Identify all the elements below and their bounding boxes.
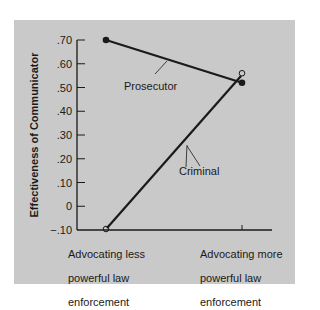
series-prosecutor [103,37,246,86]
x-category-label-less: Advocating less powerful law enforcement [68,236,145,310]
svg-text:0: 0 [66,200,72,212]
criminal-point-more [239,70,245,76]
series-criminal [103,70,245,231]
svg-text:.40: .40 [57,105,72,117]
svg-text:−.10: −.10 [50,224,72,236]
svg-text:.30: .30 [57,129,72,141]
x-category-label-more: Advocating more powerful law enforcement [200,236,283,310]
y-axis-label: Effectiveness of Communicator [28,52,40,218]
prosecutor-point-less [103,37,110,44]
svg-text:.70: .70 [57,34,72,46]
prosecutor-label: Prosecutor [124,80,178,92]
prosecutor-point-more [239,79,246,86]
criminal-leader-line-2 [187,146,200,166]
svg-text:.50: .50 [57,82,72,94]
svg-text:.10: .10 [57,177,72,189]
svg-text:.20: .20 [57,153,72,165]
criminal-label: Criminal [179,165,219,177]
criminal-leader-line [186,145,187,167]
criminal-point-less [103,226,109,232]
svg-text:.60: .60 [57,58,72,70]
y-ticks [77,40,85,206]
y-tick-labels: .70 .60 .50 .40 .30 .20 .10 0 −.10 [50,34,72,236]
prosecutor-leader-line [155,61,167,74]
